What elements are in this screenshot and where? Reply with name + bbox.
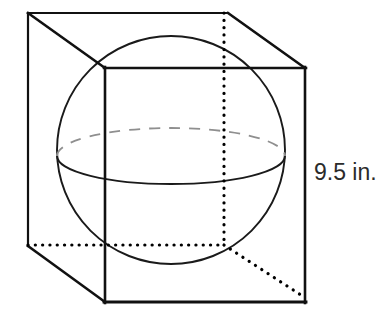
dotted-diagonal-depth-guide [224,245,304,297]
sphere-outline [57,36,285,264]
side-length-label: 9.5 in. [314,158,377,186]
cube-edge-receding-bottom-left [28,246,105,302]
geometry-figure: 9.5 in. [0,0,385,322]
sphere-group [57,36,285,264]
cube-edge-receding-top-left [28,13,105,68]
